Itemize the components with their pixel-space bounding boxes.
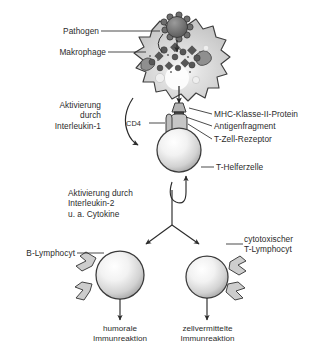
label-pathogen: Pathogen <box>0 26 99 36</box>
caption-humorale-immunreaktion: humorale Immunreaktion <box>73 324 167 344</box>
label-t-zell-rezeptor: T-Zell-Rezeptor <box>214 134 272 144</box>
label-cd4: CD4 <box>126 119 141 129</box>
cytotoxic-t-lymphocyte <box>186 256 246 300</box>
label-aktivierung-interleukin-2: Aktivierung durch Interleukin-2 u. a. Cy… <box>68 188 133 219</box>
leader-mhc <box>189 108 212 114</box>
label-cytotoxischer-t-lymphocyt: cytotoxischer T-Lymphocyt <box>244 234 293 255</box>
label-antigenfragment: Antigenfragment <box>214 121 276 131</box>
label-b-lymphocyt: B-Lymphocyt <box>0 248 75 258</box>
cytotoxic-cell-body <box>186 256 228 298</box>
branch-to-cytotoxic-cell <box>172 225 199 244</box>
leader-antigen <box>186 117 212 126</box>
label-mhc-klasse-ii-protein: MHC-Klasse-II-Protein <box>214 109 298 119</box>
interleukin-2-self-loop <box>170 176 186 203</box>
macrophage-vacuole-a <box>155 73 164 82</box>
label-makrophage: Makrophage <box>0 47 106 57</box>
branch-to-b-cell <box>146 225 172 244</box>
macrophage-vacuole-c <box>203 45 209 51</box>
b-lymphocyte <box>75 251 144 300</box>
b-cell-body <box>96 251 144 299</box>
mhc-class-ii-protein <box>172 103 186 112</box>
label-aktivierung-interleukin-1: Aktivierung durch Interleukin-1 <box>0 100 101 131</box>
pathogen-core <box>167 17 188 38</box>
macrophage-vacuole-b <box>192 76 199 83</box>
tcr-receptors <box>226 256 246 300</box>
antibody-receptors <box>75 252 96 300</box>
t-helper-cell <box>157 128 201 172</box>
label-t-helferzelle: T-Helferzelle <box>216 162 263 172</box>
caption-zellvermittelte-immunreaktion: zellvermittelte Immunreaktion <box>159 324 256 344</box>
